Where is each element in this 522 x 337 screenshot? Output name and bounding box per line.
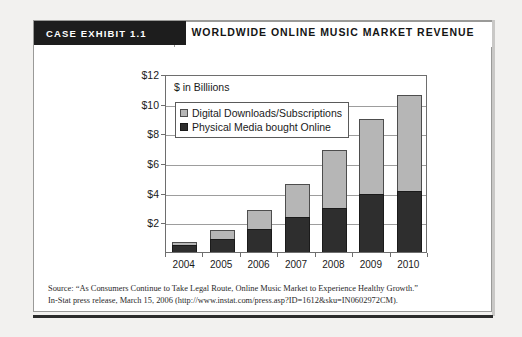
page-bottom-rule <box>33 315 493 318</box>
bar-segment-physical <box>285 217 310 252</box>
bar-segment-physical <box>322 208 347 253</box>
chart-title: WORLDWIDE ONLINE MUSIC MARKET REVENUE <box>174 26 492 38</box>
bar-segment-physical <box>359 194 384 252</box>
y-axis-tick <box>161 223 165 224</box>
exhibit-page: CASE EXHIBIT 1.1 WORLDWIDE ONLINE MUSIC … <box>0 0 522 337</box>
x-axis-label: 2010 <box>397 259 419 270</box>
y-axis-tick <box>161 105 165 106</box>
source-note-line-2: In-Stat press release, March 15, 2006 (h… <box>48 295 480 307</box>
x-axis-tick <box>390 253 391 257</box>
y-axis-label: $12 <box>141 69 159 81</box>
x-axis-tick <box>202 253 203 257</box>
source-note: Source: “As Consumers Continue to Take L… <box>48 283 480 306</box>
y-axis-label: $4 <box>147 188 159 200</box>
x-axis-label: 2004 <box>173 259 195 270</box>
x-axis-tick <box>165 253 166 257</box>
bar-segment-physical <box>172 245 197 252</box>
source-note-line-1: Source: “As Consumers Continue to Take L… <box>48 283 480 295</box>
bar-segment-physical <box>247 229 272 252</box>
chart-x-axis: 2004200520062007200820092010 <box>165 253 427 277</box>
y-axis-label: $8 <box>147 128 159 140</box>
y-axis-tick <box>161 164 165 165</box>
bar-segment-digital <box>285 184 310 217</box>
chart-legend: Digital Downloads/Subscriptions Physical… <box>175 102 349 138</box>
x-axis-tick <box>315 253 316 257</box>
legend-swatch-digital-icon <box>180 109 188 117</box>
y-axis-tick <box>161 75 165 76</box>
bar-segment-physical <box>397 191 422 252</box>
bar-column <box>210 230 235 252</box>
x-axis-tick <box>427 253 428 257</box>
x-axis-label: 2005 <box>210 259 232 270</box>
x-axis-tick <box>277 253 278 257</box>
x-axis-tick <box>352 253 353 257</box>
y-axis-label: $2 <box>147 217 159 229</box>
bar-segment-digital <box>322 150 347 207</box>
x-axis-label: 2009 <box>360 259 382 270</box>
chart-units-label: $ in Billiions <box>174 81 229 93</box>
bar-segment-digital <box>210 230 235 240</box>
bar-column <box>285 184 310 252</box>
legend-item-physical: Physical Media bought Online <box>180 120 342 134</box>
legend-item-digital: Digital Downloads/Subscriptions <box>180 106 342 120</box>
y-axis-label: $10 <box>141 99 159 111</box>
bar-segment-digital <box>247 210 272 229</box>
exhibit-tab-label: CASE EXHIBIT 1.1 <box>34 21 186 45</box>
exhibit-frame: CASE EXHIBIT 1.1 WORLDWIDE ONLINE MUSIC … <box>33 20 492 312</box>
legend-swatch-physical-icon <box>180 123 188 131</box>
chart-plot-area: $ in Billiions Digital Downloads/Subscri… <box>165 75 427 253</box>
page-right-shadow <box>492 20 495 316</box>
bar-segment-physical <box>210 239 235 252</box>
y-axis-tick <box>161 134 165 135</box>
x-axis-label: 2008 <box>322 259 344 270</box>
y-axis-tick <box>161 194 165 195</box>
legend-label-physical: Physical Media bought Online <box>192 121 331 133</box>
chart-plot-wrapper: $ in Billiions Digital Downloads/Subscri… <box>165 75 427 253</box>
y-axis-label: $6 <box>147 158 159 170</box>
legend-label-digital: Digital Downloads/Subscriptions <box>192 107 342 119</box>
bar-segment-digital <box>397 95 422 191</box>
bar-column <box>247 210 272 252</box>
bar-column <box>359 119 384 252</box>
x-axis-label: 2007 <box>285 259 307 270</box>
bar-column <box>172 242 197 252</box>
x-axis-tick <box>240 253 241 257</box>
bar-column <box>397 95 422 252</box>
x-axis-label: 2006 <box>247 259 269 270</box>
bar-column <box>322 150 347 252</box>
bar-segment-digital <box>359 119 384 195</box>
